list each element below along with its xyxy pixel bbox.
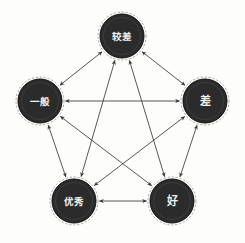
node-youxiu[interactable]: 优秀	[50, 177, 98, 225]
edge-yiban-hao	[60, 116, 151, 185]
edge-yiban-jiaocha	[60, 52, 102, 85]
node-yiban[interactable]: 一般	[16, 77, 64, 125]
node-label: 差	[200, 94, 211, 108]
node-label: 一般	[30, 96, 50, 107]
graph-canvas: 较差一般差优秀好	[0, 0, 245, 243]
edge-youxiu-cha	[94, 116, 184, 185]
edges-layer	[48, 52, 197, 201]
node-hao[interactable]: 好	[148, 177, 196, 225]
directed-graph-svg: 较差一般差优秀好	[0, 0, 245, 243]
edge-yiban-youxiu	[48, 125, 66, 177]
node-label: 优秀	[64, 196, 84, 207]
node-label: 好	[166, 194, 178, 208]
edge-youxiu-jiaocha	[81, 60, 115, 176]
node-label: 较差	[112, 31, 132, 42]
node-cha[interactable]: 差	[181, 77, 229, 125]
nodes-layer: 较差一般差优秀好	[16, 12, 229, 225]
edge-jiaocha-cha	[142, 52, 185, 86]
edge-hao-jiaocha	[129, 60, 164, 176]
edge-cha-hao	[180, 125, 197, 177]
node-jiaocha[interactable]: 较差	[98, 12, 146, 60]
